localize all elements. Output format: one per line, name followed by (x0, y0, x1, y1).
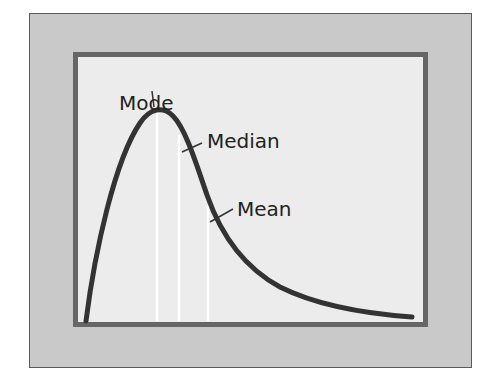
distribution-plot (0, 0, 500, 391)
mode-label: Mode (119, 93, 174, 113)
mean-label: Mean (237, 199, 292, 219)
median-label: Median (207, 131, 280, 151)
